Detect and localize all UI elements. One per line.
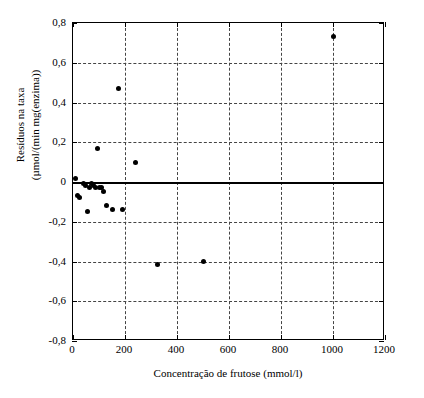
- y-tick-right: [379, 142, 384, 143]
- y-tick-label: 0,4: [26, 96, 66, 108]
- y-tick-right: [379, 23, 384, 24]
- data-point: [85, 209, 90, 214]
- y-tick-label: -0,2: [26, 215, 66, 227]
- y-tick-label: 0,6: [26, 56, 66, 68]
- y-tick-label: 0,8: [26, 16, 66, 28]
- x-tick: [385, 335, 386, 340]
- y-gridline: [73, 103, 383, 104]
- y-tick-right: [379, 222, 384, 223]
- data-point: [331, 34, 336, 39]
- x-tick-label: 1200: [354, 343, 414, 355]
- data-point: [95, 146, 100, 151]
- x-gridline: [229, 23, 230, 339]
- x-tick-label: 600: [198, 343, 258, 355]
- data-point: [133, 160, 138, 165]
- y-tick: [72, 23, 77, 24]
- x-tick-top: [125, 22, 126, 27]
- x-tick-label: 800: [250, 343, 310, 355]
- y-tick-label: -0,6: [26, 294, 66, 306]
- y-tick: [72, 301, 77, 302]
- x-axis-title: Concentração de frutose (mmol/l): [72, 367, 384, 379]
- data-point: [77, 195, 82, 200]
- data-point: [73, 176, 78, 181]
- y-gridline: [73, 63, 383, 64]
- y-gridline: [73, 222, 383, 223]
- x-tick-label: 400: [146, 343, 206, 355]
- y-gridline: [73, 262, 383, 263]
- x-tick: [177, 335, 178, 340]
- x-gridline: [281, 23, 282, 339]
- y-tick: [72, 103, 77, 104]
- x-tick-top: [385, 22, 386, 27]
- x-tick: [281, 335, 282, 340]
- y-tick-right: [379, 301, 384, 302]
- y-tick-label: 0: [26, 175, 66, 187]
- x-gridline: [333, 23, 334, 339]
- x-tick-label: 200: [94, 343, 154, 355]
- x-gridline: [177, 23, 178, 339]
- y-tick-right: [379, 341, 384, 342]
- y-gridline: [73, 142, 383, 143]
- y-tick: [72, 222, 77, 223]
- x-tick: [73, 335, 74, 340]
- y-tick-right: [379, 63, 384, 64]
- x-tick-top: [177, 22, 178, 27]
- data-point: [201, 259, 206, 264]
- x-gridline: [125, 23, 126, 339]
- y-tick: [72, 262, 77, 263]
- x-tick: [125, 335, 126, 340]
- x-tick-label: 1000: [302, 343, 362, 355]
- y-gridline: [73, 301, 383, 302]
- data-point: [104, 203, 109, 208]
- y-tick: [72, 341, 77, 342]
- x-tick-top: [333, 22, 334, 27]
- y-tick: [72, 63, 77, 64]
- plot-area: [72, 22, 384, 340]
- data-point: [101, 189, 106, 194]
- zero-reference-line: [73, 182, 383, 184]
- residual-scatter-chart: Concentração de frutose (mmol/l) Resíduo…: [0, 0, 424, 398]
- data-point: [110, 207, 115, 212]
- data-point: [116, 86, 121, 91]
- x-tick-top: [229, 22, 230, 27]
- y-tick-label: 0,2: [26, 135, 66, 147]
- y-tick: [72, 142, 77, 143]
- data-point: [155, 262, 160, 267]
- x-tick: [333, 335, 334, 340]
- y-tick-right: [379, 103, 384, 104]
- y-tick-label: -0,4: [26, 255, 66, 267]
- y-tick-right: [379, 262, 384, 263]
- x-tick: [229, 335, 230, 340]
- y-tick-label: -0,8: [26, 334, 66, 346]
- x-tick-top: [281, 22, 282, 27]
